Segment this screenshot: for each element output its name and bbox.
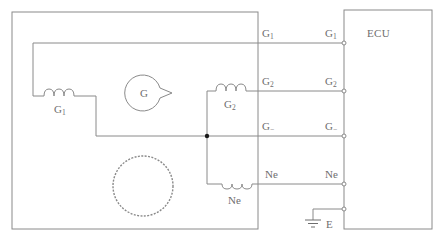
ecu-box (344, 10, 432, 229)
wire-ne-return (207, 136, 222, 184)
ne-coil-label: Ne (228, 194, 241, 206)
sensor-housing-frame (12, 12, 258, 229)
ecu-terminal-g-minus[interactable] (342, 134, 346, 138)
ecu-label-g-minus: G− (325, 120, 337, 134)
ecu-terminal-g2[interactable] (342, 89, 346, 93)
g2-coil-label: G2 (224, 98, 236, 112)
ne-coil-icon (222, 184, 252, 189)
wire-g2-return (207, 91, 216, 136)
sensor-label-ne: Ne (265, 168, 278, 180)
sensor-label-g1: G1 (262, 27, 274, 41)
ignition-signal-circuit-diagram: ECU G G1 G2 Ne G1 G2 G− Ne G1 G2 G− Ne E (0, 0, 440, 243)
signal-rotor-label: G (140, 87, 148, 99)
ecu-label-ne: Ne (325, 168, 338, 180)
sensor-label-g2: G2 (262, 75, 274, 89)
wire-g1-return (74, 96, 96, 136)
ground-label: E (326, 218, 333, 230)
ecu-terminal-e[interactable] (342, 207, 346, 211)
ground-icon (305, 220, 321, 227)
g1-coil-label: G1 (54, 103, 66, 117)
g1-coil-icon (44, 89, 74, 96)
signal-rotor-icon (125, 75, 172, 111)
ecu-label-g2: G2 (325, 75, 337, 89)
sensor-label-g-minus: G− (262, 120, 274, 134)
ecu-label: ECU (367, 27, 390, 39)
junction-dot (205, 134, 209, 138)
ecu-terminal-ne[interactable] (342, 182, 346, 186)
g2-coil-icon (216, 84, 246, 91)
ecu-label-g1: G1 (325, 27, 337, 41)
wire-g1 (33, 43, 344, 96)
toothed-rotor-icon (113, 156, 173, 216)
ecu-terminal-g1[interactable] (342, 41, 346, 45)
